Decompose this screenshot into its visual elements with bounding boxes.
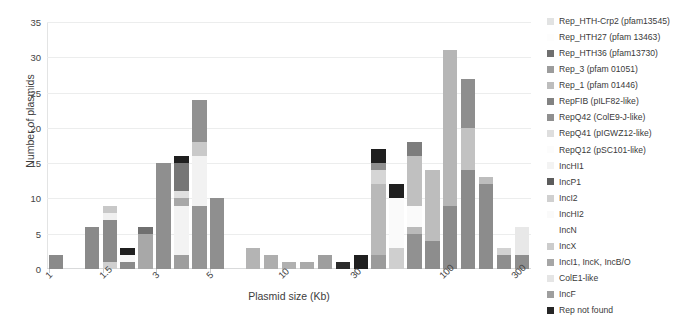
bar-segment bbox=[461, 128, 475, 170]
legend-swatch-icon bbox=[547, 211, 554, 218]
legend-item-label: IncF bbox=[559, 290, 576, 299]
bar-segment bbox=[371, 170, 385, 184]
bar bbox=[49, 255, 63, 269]
legend-item[interactable]: IncX bbox=[547, 238, 679, 254]
legend-item[interactable]: Rep_3 (pfam 01051) bbox=[547, 61, 679, 77]
bar-segment bbox=[192, 142, 206, 156]
legend-item[interactable]: Rep not found bbox=[547, 303, 679, 319]
legend-item-label: Rep not found bbox=[559, 306, 613, 315]
bar-segment bbox=[389, 198, 403, 247]
y-axis-tick-label: 30 bbox=[30, 52, 41, 63]
legend-swatch-icon bbox=[547, 34, 554, 41]
legend-item[interactable]: RepQ12 (pSC101-like) bbox=[547, 142, 679, 158]
legend-item-label: Rep_1 (pfam 01446) bbox=[559, 81, 638, 90]
y-axis-tick-label: 20 bbox=[30, 122, 41, 133]
bar bbox=[85, 227, 99, 269]
legend-swatch-icon bbox=[547, 178, 554, 185]
bar-segment bbox=[120, 255, 134, 262]
legend-item-label: Rep_HTH-Crp2 (pfam13545) bbox=[559, 17, 670, 26]
bar bbox=[156, 163, 170, 269]
legend-swatch-icon bbox=[547, 227, 554, 234]
bar-segment bbox=[120, 262, 134, 269]
bar-segment bbox=[174, 198, 188, 205]
bar-segment bbox=[407, 206, 421, 227]
legend-swatch-icon bbox=[547, 130, 554, 137]
bar-segment bbox=[103, 220, 117, 262]
legend-item[interactable]: Rep_HTH27 (pfam 13463) bbox=[547, 29, 679, 45]
bar-segment bbox=[300, 262, 314, 269]
bar-segment bbox=[371, 163, 385, 170]
legend-item-label: RepFIB (pILF82-like) bbox=[559, 97, 639, 106]
legend-swatch-icon bbox=[547, 18, 554, 25]
legend-item-label: IncI2 bbox=[559, 194, 578, 203]
bar-segment bbox=[461, 79, 475, 128]
bar-segment bbox=[425, 241, 439, 269]
legend-item[interactable]: IncF bbox=[547, 287, 679, 303]
legend-item-label: Rep_HTH27 (pfam 13463) bbox=[559, 33, 660, 42]
bar-segment bbox=[318, 255, 332, 269]
legend-item[interactable]: IncHI1 bbox=[547, 158, 679, 174]
bar-segment bbox=[389, 184, 403, 198]
y-axis-title: Number of plasmids bbox=[24, 41, 36, 201]
bar bbox=[371, 149, 385, 269]
legend-item[interactable]: Rep_1 (pfam 01446) bbox=[547, 77, 679, 93]
legend-item-label: RepQ41 (pIGWZ12-like) bbox=[559, 129, 652, 138]
chart-legend: Rep_HTH-Crp2 (pfam13545)Rep_HTH27 (pfam … bbox=[547, 13, 679, 319]
y-axis-tick-label: 35 bbox=[30, 17, 41, 28]
y-axis-tick-label: 25 bbox=[30, 87, 41, 98]
legend-swatch-icon bbox=[547, 243, 554, 250]
legend-item-label: Rep_HTH36 (pfam13730) bbox=[559, 49, 658, 58]
legend-swatch-icon bbox=[547, 307, 554, 314]
bar bbox=[389, 184, 403, 269]
y-axis-tick-label: 0 bbox=[36, 264, 41, 275]
legend-item[interactable]: IncI1, IncK, IncB/O bbox=[547, 254, 679, 270]
bar-segment bbox=[443, 206, 457, 270]
x-axis-tick-label: 1 bbox=[43, 269, 55, 281]
bar-segment bbox=[103, 206, 117, 213]
legend-item[interactable]: RepFIB (pILF82-like) bbox=[547, 93, 679, 109]
bar-segment bbox=[264, 255, 278, 269]
y-axis-tick-label: 15 bbox=[30, 158, 41, 169]
bar bbox=[318, 255, 332, 269]
bar-segment bbox=[497, 255, 511, 269]
bar bbox=[246, 248, 260, 269]
bar-segment bbox=[407, 142, 421, 156]
legend-item[interactable]: Rep_HTH-Crp2 (pfam13545) bbox=[547, 13, 679, 29]
legend-item-label: RepQ12 (pSC101-like) bbox=[559, 146, 646, 155]
bar-segment bbox=[210, 198, 224, 269]
legend-item[interactable]: ColE1-like bbox=[547, 271, 679, 287]
bar-segment bbox=[515, 227, 529, 255]
bar-segment bbox=[174, 206, 188, 255]
bar bbox=[210, 198, 224, 269]
bar-segment bbox=[103, 213, 117, 220]
x-axis-tick-label: 5 bbox=[204, 269, 216, 281]
bar-segment bbox=[461, 170, 475, 269]
bar-segment bbox=[120, 248, 134, 255]
x-axis-title: Plasmid size (Kb) bbox=[47, 290, 531, 302]
bar bbox=[103, 206, 117, 270]
bar bbox=[264, 255, 278, 269]
legend-item[interactable]: RepQ41 (pIGWZ12-like) bbox=[547, 126, 679, 142]
legend-item[interactable]: Rep_HTH36 (pfam13730) bbox=[547, 45, 679, 61]
legend-item[interactable]: IncP1 bbox=[547, 174, 679, 190]
legend-swatch-icon bbox=[547, 275, 554, 282]
legend-item-label: RepQ42 (ColE9-J-like) bbox=[559, 113, 645, 122]
bar-segment bbox=[479, 184, 493, 269]
legend-item-label: ColE1-like bbox=[559, 274, 598, 283]
bar-segment bbox=[407, 227, 421, 234]
bar-series bbox=[47, 22, 531, 269]
legend-item[interactable]: IncHI2 bbox=[547, 206, 679, 222]
legend-swatch-icon bbox=[547, 114, 554, 121]
legend-item[interactable]: IncI2 bbox=[547, 190, 679, 206]
legend-item[interactable]: RepQ42 (ColE9-J-like) bbox=[547, 110, 679, 126]
legend-item-label: IncX bbox=[559, 242, 576, 251]
legend-swatch-icon bbox=[547, 66, 554, 73]
bar bbox=[138, 227, 152, 269]
legend-item-label: IncHI2 bbox=[559, 210, 584, 219]
legend-swatch-icon bbox=[547, 82, 554, 89]
legend-item[interactable]: IncN bbox=[547, 222, 679, 238]
bar-segment bbox=[174, 255, 188, 269]
bar-segment bbox=[371, 149, 385, 163]
bar-segment bbox=[192, 156, 206, 205]
